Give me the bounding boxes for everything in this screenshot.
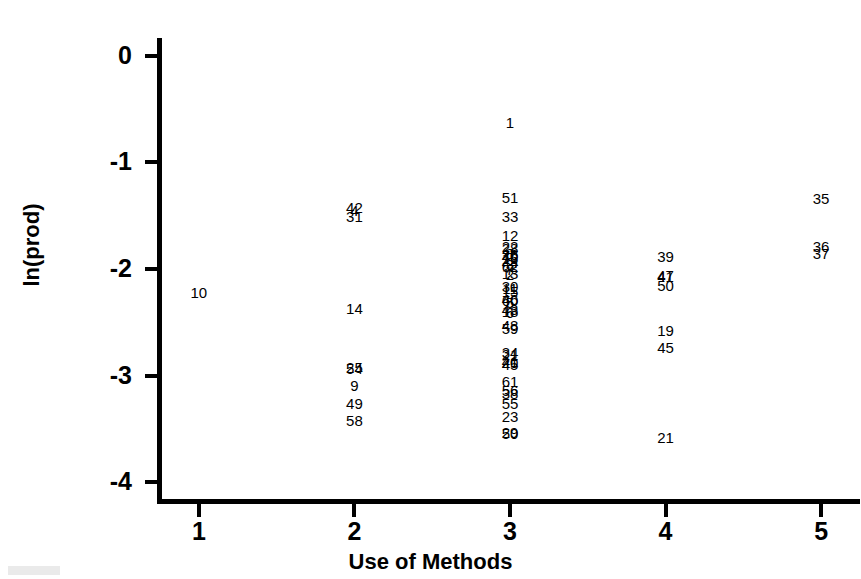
- data-point-label: 9: [350, 378, 358, 393]
- y-axis-tick-mark: [145, 160, 158, 164]
- x-axis-tick-mark: [508, 504, 512, 517]
- data-point-label: 10: [191, 285, 208, 300]
- y-axis-tick-mark: [145, 267, 158, 271]
- x-axis-tick-mark: [664, 504, 668, 517]
- y-axis-tick-label: 0: [88, 43, 132, 68]
- y-axis-tick-mark: [145, 54, 158, 58]
- data-point-label: 14: [346, 301, 363, 316]
- data-point-label: 35: [813, 190, 830, 205]
- data-point-label: 21: [657, 430, 674, 445]
- data-point-label: 1: [506, 115, 514, 130]
- scatter-plot-figure: 0-1-2-3-4 12345 104243114255494958151331…: [0, 0, 861, 579]
- x-axis-tick-mark: [197, 504, 201, 517]
- y-axis-tick-label: -4: [88, 469, 132, 494]
- scan-artifact: [8, 566, 60, 575]
- data-point-label: 50: [657, 277, 674, 292]
- data-point-label: 54: [346, 361, 363, 376]
- y-axis-tick-label: -3: [88, 363, 132, 388]
- data-point-label: 58: [346, 413, 363, 428]
- x-axis-tick-label: 1: [179, 519, 219, 544]
- data-point-label: 59: [502, 320, 519, 335]
- data-point-label: 49: [346, 396, 363, 411]
- data-point-label: 45: [502, 356, 519, 371]
- x-axis-tick-mark: [352, 504, 356, 517]
- plot-area: 1042431142554949581513312222882640164436…: [160, 40, 860, 498]
- data-point-label: 23: [502, 408, 519, 423]
- x-axis-tick-label: 4: [646, 519, 686, 544]
- data-point-label: 31: [346, 208, 363, 223]
- y-axis-title: ln(prod): [19, 145, 45, 345]
- x-axis-tick-mark: [819, 504, 823, 517]
- data-point-label: 45: [657, 339, 674, 354]
- data-point-label: 39: [657, 249, 674, 264]
- data-point-label: 19: [657, 322, 674, 337]
- data-point-label: 33: [502, 208, 519, 223]
- data-point-label: 37: [813, 246, 830, 261]
- y-axis-tick-label: -2: [88, 256, 132, 281]
- data-point-label: 50: [502, 426, 519, 441]
- y-axis-tick-label: -1: [88, 149, 132, 174]
- x-axis-tick-label: 3: [490, 519, 530, 544]
- y-axis-tick-mark: [145, 374, 158, 378]
- x-axis-title: Use of Methods: [0, 549, 861, 575]
- x-axis-tick-label: 5: [801, 519, 841, 544]
- x-axis-tick-label: 2: [334, 519, 374, 544]
- data-point-label: 51: [502, 189, 519, 204]
- y-axis-tick-mark: [145, 480, 158, 484]
